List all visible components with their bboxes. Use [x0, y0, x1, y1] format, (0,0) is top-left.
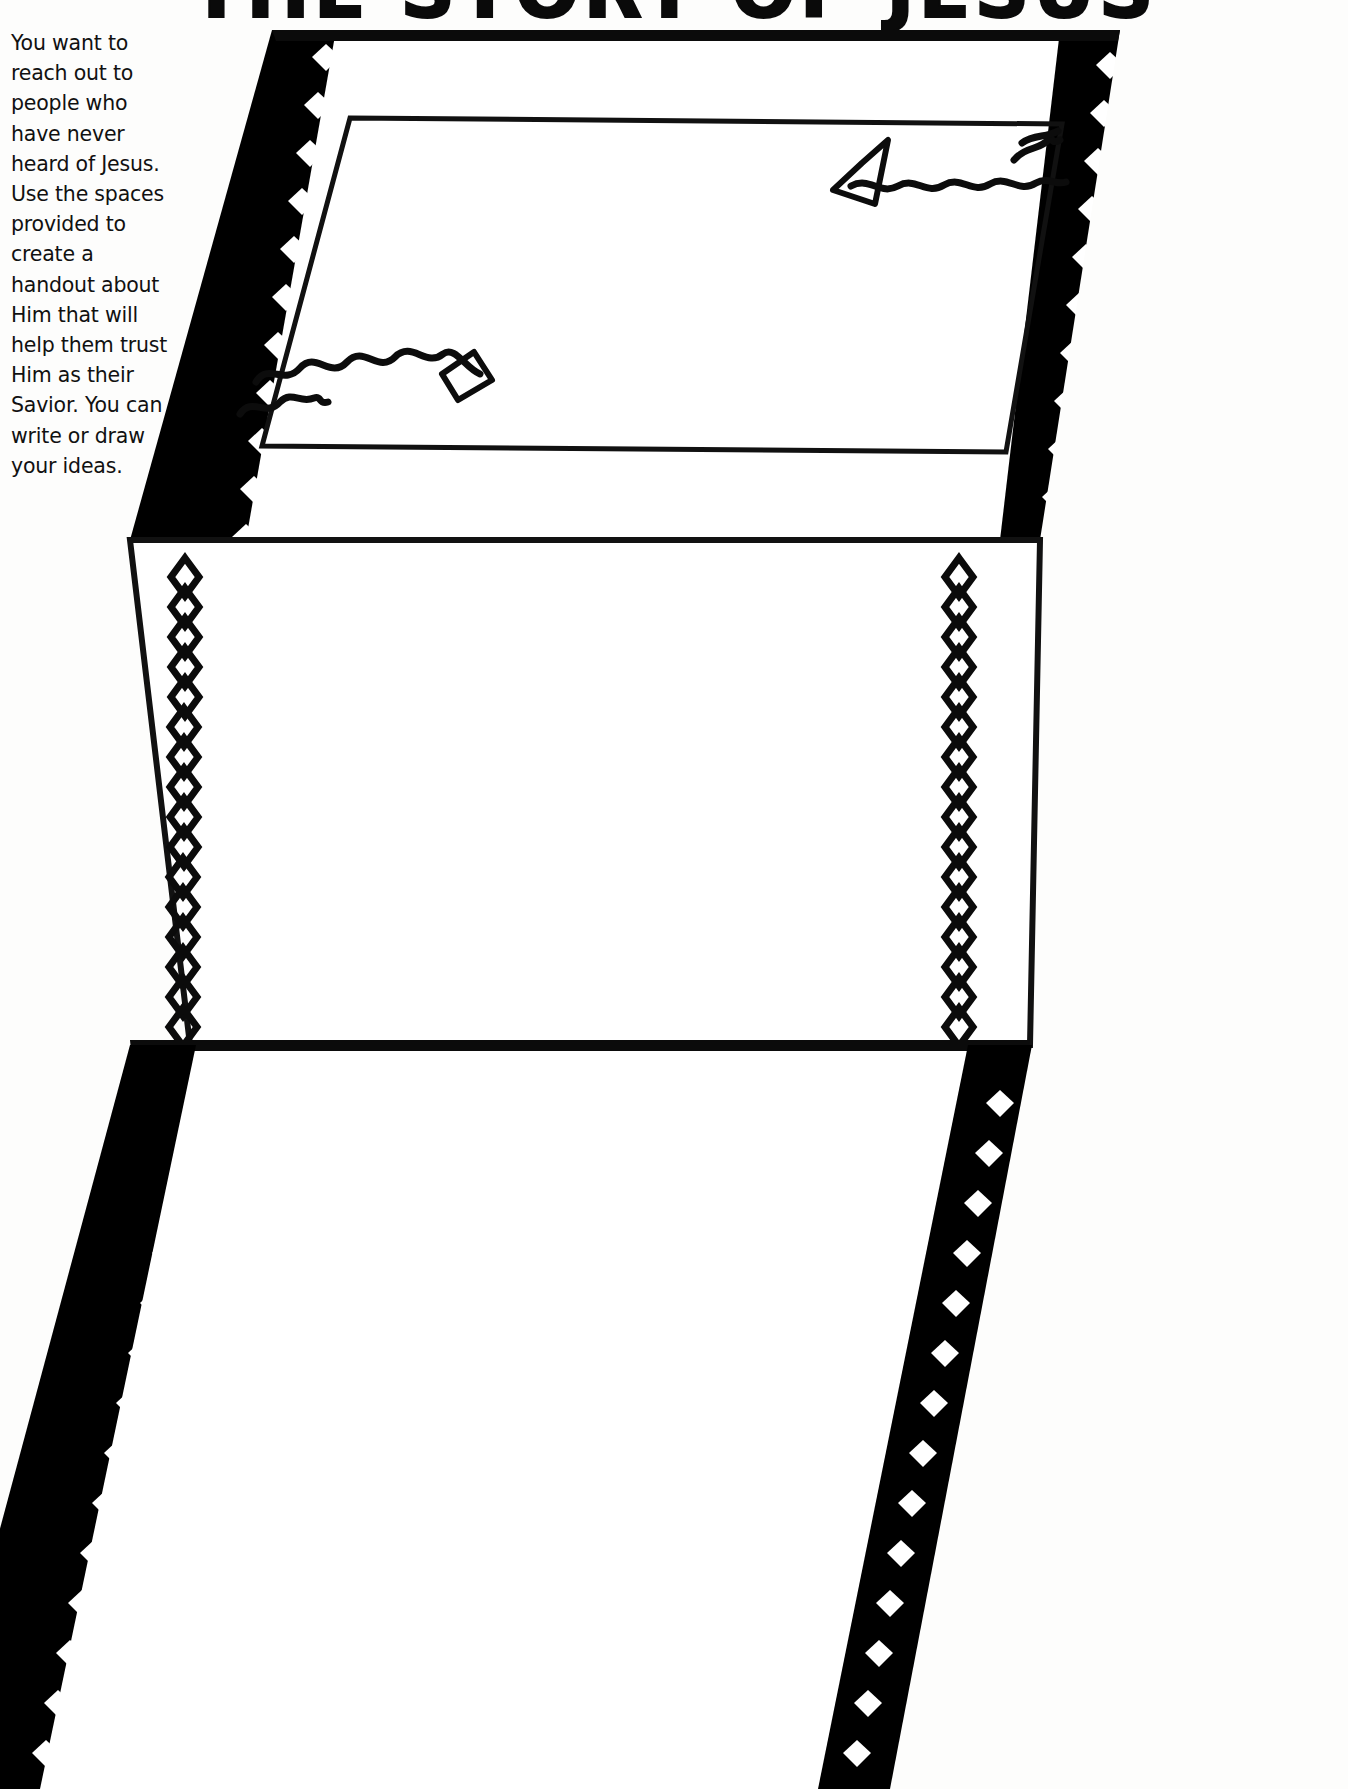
middle-panel-face: [130, 540, 1040, 1045]
brochure-svg: [0, 0, 1348, 1789]
brochure-bottom-panel: [0, 1040, 1032, 1789]
worksheet-page: THE STORY OF JESUS You want to reach out…: [0, 0, 1348, 1789]
brochure-top-panel: [130, 30, 1120, 540]
bottom-panel-top-rule: [130, 1040, 1030, 1051]
brochure-illustration: [0, 0, 1348, 1789]
top-panel-top-rule: [272, 30, 1120, 41]
brochure-middle-panel: [130, 540, 1040, 1046]
